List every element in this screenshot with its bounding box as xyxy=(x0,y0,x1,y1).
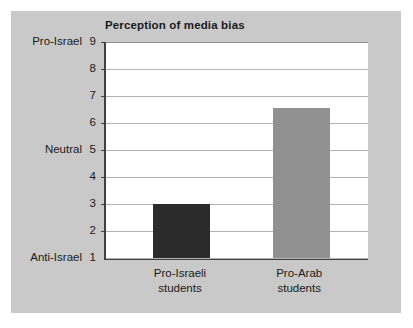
y-tick-label-2: 2 xyxy=(90,225,96,237)
y-tick-label-8: 8 xyxy=(90,63,96,75)
y-axis-category-pro-israel: Pro-Israel xyxy=(32,36,82,48)
y-tick-label-9: 9 xyxy=(90,36,96,48)
y-tick-mark-3 xyxy=(101,204,105,205)
bar-pro-israeli-students xyxy=(153,204,210,258)
y-tick-mark-4 xyxy=(101,177,105,178)
gridline-9 xyxy=(106,42,368,43)
y-tick-label-1: 1 xyxy=(90,252,96,264)
gridline-7 xyxy=(106,96,368,97)
x-axis-label-0: Pro-Israelistudents xyxy=(154,266,206,295)
y-tick-mark-9 xyxy=(101,42,105,43)
y-tick-mark-2 xyxy=(101,231,105,232)
y-axis-category-anti-israel: Anti-Israel xyxy=(30,252,82,264)
y-tick-mark-7 xyxy=(101,96,105,97)
y-tick-mark-6 xyxy=(101,123,105,124)
y-tick-mark-8 xyxy=(101,69,105,70)
plot-area xyxy=(104,42,368,260)
y-tick-label-7: 7 xyxy=(90,90,96,102)
y-tick-label-4: 4 xyxy=(90,171,96,183)
y-tick-label-5: 5 xyxy=(90,144,96,156)
y-tick-label-3: 3 xyxy=(90,198,96,210)
y-tick-mark-5 xyxy=(101,150,105,151)
x-axis-label-1: Pro-Arabstudents xyxy=(276,266,322,295)
gridline-8 xyxy=(106,69,368,70)
y-tick-label-6: 6 xyxy=(90,117,96,129)
bar-pro-arab-students xyxy=(273,108,330,258)
chart-title: Perception of media bias xyxy=(105,19,245,31)
figure: Perception of media bias 123456789Pro-Is… xyxy=(0,0,413,328)
y-axis-category-neutral: Neutral xyxy=(45,144,82,156)
